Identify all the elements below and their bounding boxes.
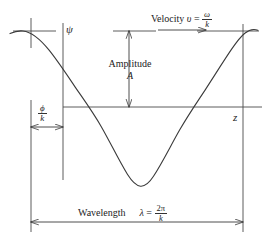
- velocity-text: Velocity: [151, 13, 184, 24]
- wavelength-denominator: k: [155, 214, 168, 223]
- phase-offset-annotation: ϕ k: [38, 104, 47, 124]
- z-axis-label: z: [233, 112, 237, 123]
- phase-fraction: ϕ k: [38, 104, 47, 124]
- amplitude-symbol: A: [104, 71, 156, 81]
- phase-denominator: k: [38, 114, 47, 123]
- wavelength-equals: =: [146, 207, 152, 218]
- psi-axis-label: ψ: [66, 24, 73, 35]
- velocity-annotation: Velocity υ = ω k: [151, 10, 212, 29]
- wavelength-symbol: λ: [140, 207, 144, 218]
- velocity-fraction: ω k: [202, 10, 212, 29]
- velocity-symbol: υ: [187, 13, 192, 24]
- wavelength-annotation: Wavelength λ = 2π k: [78, 204, 167, 223]
- amplitude-text: Amplitude: [109, 58, 152, 69]
- velocity-denominator: k: [202, 20, 212, 29]
- wave-diagram-figure: ψ z Velocity υ = ω k Amplitude A ϕ k Wav…: [0, 0, 270, 244]
- wavelength-fraction: 2π k: [155, 204, 168, 223]
- wave-curve: [10, 29, 258, 186]
- wavelength-text: Wavelength: [78, 207, 126, 218]
- amplitude-annotation: Amplitude A: [104, 59, 156, 81]
- velocity-equals: =: [194, 13, 200, 24]
